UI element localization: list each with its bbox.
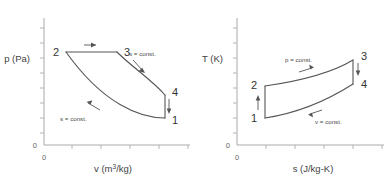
- pv-annotation-expansion: s = const.: [129, 50, 156, 57]
- pv-origin-x-label: 0: [42, 153, 46, 162]
- ts-process-4-1: [265, 84, 353, 118]
- pv-state-label-1: 1: [172, 114, 178, 126]
- ts-y-axis-title: T (K): [202, 53, 223, 64]
- ts-x-axis-title: s (J/kg-K): [293, 163, 334, 174]
- pv-y-ticks: [40, 28, 44, 133]
- pv-process-3-4: [117, 52, 165, 95]
- pv-annotation-compression: s = const.: [60, 115, 87, 122]
- pv-diagram-svg: 2 3 4 1 s = const. s = const. p (Pa) v (…: [0, 0, 194, 184]
- ts-origin-y-label: 0: [226, 141, 230, 150]
- pv-origin-y-label: 0: [33, 141, 37, 150]
- pv-arrow-2-3-icon: [84, 43, 96, 48]
- ts-arrow-4-1-icon: [308, 110, 322, 117]
- ts-origin-x-label: 0: [235, 153, 239, 162]
- ts-state-label-1: 1: [251, 112, 257, 124]
- pv-x-axis-title-tail: /kg): [116, 163, 132, 174]
- ts-state-label-2: 2: [251, 79, 257, 91]
- pv-state-label-4: 4: [172, 86, 178, 98]
- pv-arrow-3-4-icon: [133, 60, 145, 73]
- ts-annotation-heat-rejection: v = const.: [315, 118, 342, 125]
- pv-x-axis-title-main: v (m: [94, 163, 113, 174]
- ts-y-ticks: [233, 28, 237, 133]
- ts-diagram-svg: 1 2 3 4 p = const. v = const. T (K) s (J…: [195, 0, 389, 184]
- pv-y-axis-title: p (Pa): [4, 53, 30, 64]
- ts-arrow-1-2-icon: [256, 95, 261, 110]
- ts-annotation-heat-addition: p = const.: [285, 56, 312, 63]
- ts-state-label-3: 3: [361, 50, 367, 62]
- figure-root: 2 3 4 1 s = const. s = const. p (Pa) v (…: [0, 0, 389, 184]
- ts-arrow-2-3-icon: [299, 65, 314, 72]
- pv-arrow-1-2-icon: [87, 100, 101, 110]
- ts-arrow-3-4-icon: [356, 63, 361, 76]
- pv-diagram-panel: 2 3 4 1 s = const. s = const. p (Pa) v (…: [0, 0, 194, 184]
- pv-process-1-2: [66, 52, 165, 118]
- ts-state-label-4: 4: [361, 78, 367, 90]
- ts-process-2-3: [265, 60, 353, 86]
- ts-diagram-panel: 1 2 3 4 p = const. v = const. T (K) s (J…: [195, 0, 389, 184]
- pv-state-label-2: 2: [53, 46, 59, 58]
- ts-x-ticks: [266, 145, 382, 149]
- pv-x-axis-title: v (m3/kg): [94, 163, 132, 175]
- pv-arrow-4-1-icon: [167, 99, 172, 114]
- pv-x-ticks: [72, 145, 188, 149]
